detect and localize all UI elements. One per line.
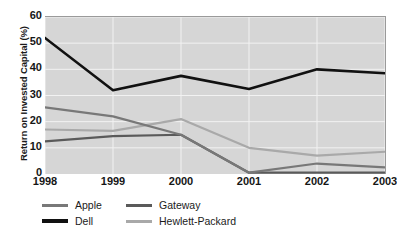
x-tick-label: 2001 <box>237 175 261 187</box>
x-tick-label: 2003 <box>373 175 397 187</box>
legend-swatch-apple <box>42 204 68 207</box>
y-tick-label: 60 <box>20 10 42 21</box>
plot-svg <box>45 17 385 174</box>
chart-legend: Apple Gateway Dell Hewlett-Packard <box>42 197 342 229</box>
legend-item-hewlett-packard: Hewlett-Packard <box>126 215 236 227</box>
y-tick-label: 50 <box>20 36 42 47</box>
legend-swatch-dell <box>42 219 68 223</box>
legend-label-apple: Apple <box>75 199 102 211</box>
series-lines <box>45 38 385 173</box>
x-tick-label: 2002 <box>305 175 329 187</box>
series-line-dell <box>45 38 385 90</box>
series-line-apple <box>45 107 385 172</box>
legend-swatch-gateway <box>126 204 152 207</box>
legend-swatch-hewlett-packard <box>126 220 152 223</box>
x-tick-label: 2000 <box>169 175 193 187</box>
legend-item-apple: Apple <box>42 199 126 211</box>
legend-row: Apple Gateway <box>42 197 342 213</box>
legend-label-hewlett-packard: Hewlett-Packard <box>159 215 236 227</box>
x-axis-tick-labels: 199819992000200120022003 <box>45 175 385 191</box>
legend-item-dell: Dell <box>42 215 126 227</box>
legend-item-gateway: Gateway <box>126 199 200 211</box>
x-tick-label: 1998 <box>33 175 57 187</box>
x-tick-label: 1999 <box>101 175 125 187</box>
legend-row: Dell Hewlett-Packard <box>42 213 342 229</box>
y-axis-tick-labels: 6050403020100 <box>16 0 42 235</box>
legend-label-gateway: Gateway <box>159 199 200 211</box>
y-tick-label: 30 <box>20 89 42 100</box>
y-tick-label: 10 <box>20 141 42 152</box>
legend-label-dell: Dell <box>75 215 93 227</box>
y-tick-label: 40 <box>20 62 42 73</box>
y-tick-label: 20 <box>20 115 42 126</box>
gridlines <box>45 17 385 174</box>
plot-area <box>45 16 386 174</box>
